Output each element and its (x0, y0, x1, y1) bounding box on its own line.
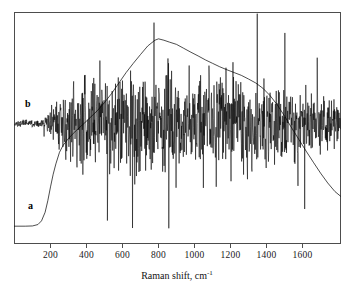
curve-label-a: a (28, 200, 33, 211)
x-tick-label-1600: 1600 (293, 250, 313, 260)
x-tick-label-200: 200 (43, 250, 58, 260)
x-tick-label-1400: 1400 (257, 250, 277, 260)
x-axis-title-superscript: -1 (207, 269, 213, 277)
x-axis-ticks (51, 244, 303, 249)
raman-spectrum-figure: 2004006008001000120014001600 Raman shift… (0, 0, 354, 293)
x-tick-label-600: 600 (115, 250, 130, 260)
curve-label-b: b (25, 98, 31, 109)
x-tick-label-800: 800 (151, 250, 166, 260)
x-tick-label-400: 400 (79, 250, 94, 260)
x-tick-label-1200: 1200 (221, 250, 241, 260)
x-tick-label-1000: 1000 (185, 250, 205, 260)
x-axis-title-text: Raman shift, cm (141, 270, 207, 281)
x-axis-title: Raman shift, cm-1 (141, 269, 213, 281)
